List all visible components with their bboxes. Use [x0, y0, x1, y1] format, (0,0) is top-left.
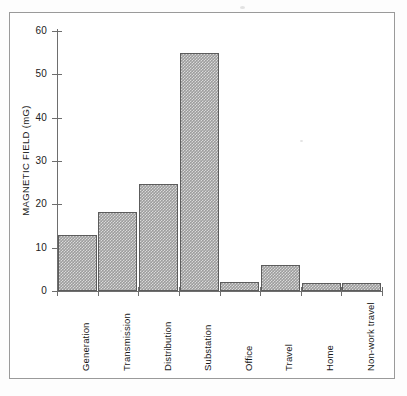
y-tick-label: 0	[17, 286, 47, 296]
bar-non-work-travel	[342, 283, 381, 291]
y-tick-mark	[52, 118, 62, 119]
bar-distribution	[139, 184, 178, 291]
bar-office	[220, 282, 259, 291]
y-tick-label: 20	[17, 199, 47, 209]
x-axis-label-substation: Substation	[203, 325, 213, 371]
x-axis-label-transmission: Transmission	[122, 313, 132, 371]
x-axis-label-generation: Generation	[81, 322, 91, 371]
figure-canvas: MAGNETIC FIELD (mG) 0102030405060 Genera…	[0, 0, 407, 396]
y-tick-mark	[52, 204, 62, 205]
x-axis-label-distribution: Distribution	[163, 322, 173, 371]
bar-substation	[180, 53, 219, 291]
plot-area: MAGNETIC FIELD (mG) 0102030405060 Genera…	[0, 0, 407, 396]
scan-artifact	[300, 140, 303, 142]
y-tick-label: 40	[17, 113, 47, 123]
y-tick-label: 10	[17, 243, 47, 253]
scan-artifact	[120, 330, 122, 332]
bar-generation	[58, 235, 97, 291]
x-axis-label-home: Home	[325, 345, 335, 371]
bar-transmission	[98, 212, 137, 291]
y-tick-label: 30	[17, 156, 47, 166]
scan-artifact	[240, 6, 245, 9]
x-axis-label-non-work-travel: Non-work travel	[366, 302, 376, 371]
y-tick-mark	[52, 74, 62, 75]
y-tick-label: 50	[17, 69, 47, 79]
y-tick-mark	[52, 161, 62, 162]
x-axis-label-travel: Travel	[284, 344, 294, 371]
y-tick-label: 60	[17, 26, 47, 36]
bar-travel	[261, 265, 300, 291]
x-axis-label-office: Office	[244, 345, 254, 371]
x-tick-mark	[382, 287, 383, 296]
y-tick-mark	[52, 31, 62, 32]
bar-home	[302, 283, 341, 291]
